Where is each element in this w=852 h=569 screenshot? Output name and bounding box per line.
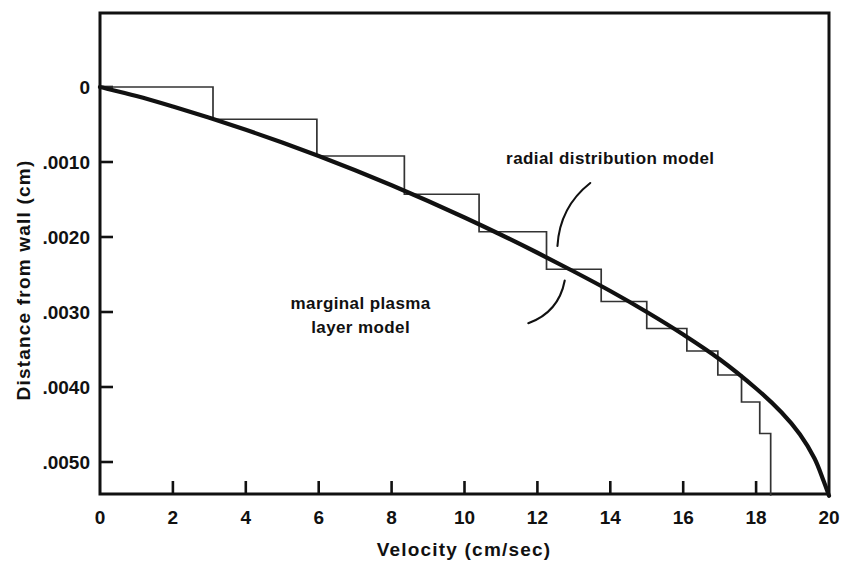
y-tick-label: 0 [79, 77, 90, 98]
x-axis-tick-labels: 02468101214161820 [95, 507, 840, 528]
series-group [100, 87, 829, 496]
y-axis-tick-labels: 0.0010.0020.0030.0040.0050 [42, 77, 90, 473]
y-axis-title: Distance from wall (cm) [13, 160, 34, 401]
x-tick-label: 8 [386, 507, 397, 528]
annotation-line: layer model [311, 318, 410, 337]
chart-canvas: 0.0010.0020.0030.0040.0050 0246810121416… [0, 0, 852, 569]
y-tick-label: .0010 [42, 152, 90, 173]
x-tick-label: 10 [454, 507, 475, 528]
annotation-line: radial distribution model [506, 149, 714, 168]
x-tick-label: 0 [95, 507, 106, 528]
x-tick-label: 2 [168, 507, 179, 528]
series-marginal-plasma-layer-model [100, 87, 829, 496]
y-axis-ticks [100, 87, 113, 462]
figure-container: 0.0010.0020.0030.0040.0050 0246810121416… [0, 0, 852, 569]
x-tick-label: 16 [673, 507, 694, 528]
plot-frame [100, 13, 829, 494]
x-tick-label: 18 [746, 507, 767, 528]
y-tick-label: .0020 [42, 227, 90, 248]
annotation-marginal-plasma-layer-model: marginal plasmalayer model [291, 294, 431, 337]
x-tick-label: 14 [600, 507, 622, 528]
annotation-radial-distribution-model: radial distribution model [506, 149, 714, 168]
annotation-leader-marginal-plasma-layer-model [528, 281, 564, 324]
y-tick-label: .0040 [42, 377, 90, 398]
annotation-line: marginal plasma [291, 294, 431, 313]
y-tick-label: .0030 [42, 302, 90, 323]
page-caption-fragment [0, 555, 852, 569]
x-axis-ticks [173, 481, 756, 494]
annotation-leader-radial-distribution-model [557, 183, 590, 246]
x-tick-label: 6 [313, 507, 324, 528]
frame-box [100, 13, 829, 494]
x-tick-label: 20 [818, 507, 839, 528]
x-tick-label: 12 [527, 507, 548, 528]
y-tick-label: .0050 [42, 452, 90, 473]
x-tick-label: 4 [241, 507, 252, 528]
annotations-group: radial distribution modelmarginal plasma… [291, 149, 715, 338]
